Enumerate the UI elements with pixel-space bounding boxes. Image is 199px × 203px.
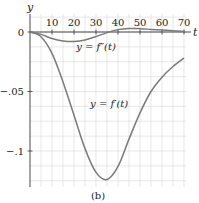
x-tick-label: 60	[156, 17, 169, 28]
x-axis-label: t	[193, 26, 198, 39]
x-tick-label: 10	[46, 17, 59, 28]
y-tick-label: −.05	[0, 86, 24, 97]
y-tick-label: 0	[18, 27, 24, 38]
figure-caption: (b)	[91, 190, 105, 201]
x-tick-label: 40	[112, 17, 125, 28]
x-tick-label: 20	[68, 17, 81, 28]
line-chart: 102030405060700−.05−.1 y = f″(t)y = f′(t…	[0, 0, 199, 203]
x-tick-label: 30	[90, 17, 103, 28]
x-tick-label: 70	[178, 17, 191, 28]
curve-annotations: y = f″(t)y = f′(t)	[75, 41, 128, 109]
y-tick-label: −.1	[6, 146, 24, 157]
chart-figure: 102030405060700−.05−.1 y = f″(t)y = f′(t…	[0, 0, 199, 203]
curve-label: y = f″(t)	[75, 41, 116, 52]
curve-label: y = f′(t)	[89, 98, 128, 109]
x-tick-label: 50	[134, 17, 147, 28]
y-axis-label: y	[26, 1, 34, 14]
